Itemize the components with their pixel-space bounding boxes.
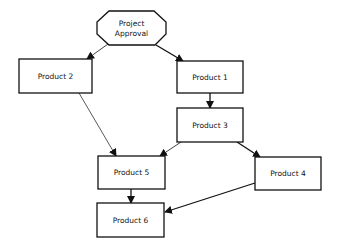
edge-product-3-to-product-4[interactable] xyxy=(237,142,260,157)
octagon-shape xyxy=(97,11,166,45)
node-label-line-1: Project xyxy=(119,19,145,28)
node-label: Product 6 xyxy=(113,216,149,225)
node-product-3[interactable]: Product 3 xyxy=(177,108,243,142)
edge-approval-to-product-1[interactable] xyxy=(156,45,183,61)
node-product-6[interactable]: Product 6 xyxy=(97,203,164,237)
node-label: Product 1 xyxy=(192,73,228,82)
edge-product-4-to-product-6[interactable] xyxy=(165,183,255,212)
node-product-5[interactable]: Product 5 xyxy=(98,156,165,189)
edge-product-2-to-product-5[interactable] xyxy=(79,93,116,156)
node-label: Product 4 xyxy=(270,169,306,178)
node-label: Product 2 xyxy=(38,72,74,81)
node-label: Product 5 xyxy=(114,168,150,177)
node-label: Product 3 xyxy=(192,121,228,130)
node-product-2[interactable]: Product 2 xyxy=(19,59,92,93)
node-label-line-2: Approval xyxy=(115,29,148,38)
node-product-4[interactable]: Product 4 xyxy=(255,157,321,190)
edge-approval-to-product-2[interactable] xyxy=(87,44,108,59)
edge-product-3-to-product-5[interactable] xyxy=(160,142,181,156)
node-product-1[interactable]: Product 1 xyxy=(177,61,243,93)
node-project-approval[interactable]: Project Approval xyxy=(97,11,166,45)
flowchart-canvas: Project Approval Product 2 Product 1 Pro… xyxy=(0,0,337,251)
